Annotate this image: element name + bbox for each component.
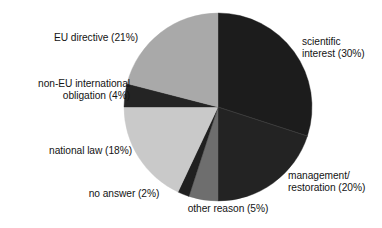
slice-label-eu-directive: EU directive (21%) (36, 32, 156, 44)
pie-chart: scientific interest (30%) management/ re… (0, 0, 382, 228)
slice-label-scientific-interest: scientific interest (30%) (302, 36, 382, 61)
slice-label-other-reason: other reason (5%) (176, 203, 280, 215)
slice-label-non-eu-obligation: non-EU international obligation (4%) (2, 78, 130, 103)
slice-label-no-answer: no answer (2%) (76, 188, 172, 200)
slice-label-national-law: national law (18%) (16, 145, 132, 157)
slice-label-management-restoration: management/ restoration (20%) (288, 170, 382, 195)
